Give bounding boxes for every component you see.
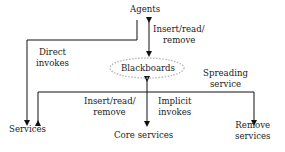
agents-node: Agents — [130, 4, 160, 15]
spreading-service-label: Spreading service — [203, 68, 248, 90]
agents-blackboards-label: Insert/read/ remove — [153, 24, 205, 46]
direct-invokes-label: Direct invokes — [36, 47, 69, 69]
core-insert-label: Insert/read/ remove — [84, 96, 136, 118]
implicit-invokes-label: Implicit invokes — [158, 96, 192, 118]
blackboards-node: Blackboards — [121, 63, 175, 74]
remove-services-node: Remove services — [235, 120, 271, 142]
blackboard-architecture-diagram: Agents Insert/read/ remove Direct invoke… — [0, 0, 285, 152]
services-node: Services — [9, 124, 46, 135]
core-services-node: Core services — [114, 130, 173, 141]
spreading-service-arrow — [38, 92, 254, 123]
